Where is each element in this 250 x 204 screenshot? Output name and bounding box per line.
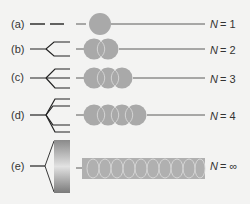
- row-label-e: (e): [11, 160, 24, 172]
- n-label-4: N= 4: [210, 110, 236, 122]
- row-a: (a) N= 1: [11, 13, 236, 35]
- row-label-c: (c): [11, 71, 24, 83]
- n-label-infinity: N= ∞: [210, 160, 237, 172]
- energy-band-e: [30, 140, 70, 193]
- energy-levels-d: [30, 99, 70, 132]
- row-label-a: (a): [11, 18, 24, 30]
- n-label-1: N= 1: [210, 18, 236, 30]
- n-label-3: N= 3: [210, 73, 236, 85]
- molecular-orbital-diagram: (a) N= 1 (b) N= 2 (c): [0, 0, 250, 204]
- energy-levels-b: [30, 42, 70, 56]
- atom-circle: [89, 13, 111, 35]
- atom-chain-4: [84, 105, 147, 126]
- row-label-d: (d): [11, 109, 24, 121]
- atom-band-infinite: [82, 158, 205, 179]
- row-label-b: (b): [11, 43, 24, 55]
- row-e: (e) N= ∞: [11, 140, 237, 193]
- row-c: (c) N= 3: [11, 68, 236, 89]
- atom-pair: [84, 39, 119, 60]
- energy-levels-c: [30, 69, 70, 88]
- atom-chain-3: [84, 68, 133, 89]
- row-d: (d) N= 4: [11, 99, 236, 132]
- n-label-2: N= 2: [210, 44, 236, 56]
- row-b: (b) N= 2: [11, 39, 236, 60]
